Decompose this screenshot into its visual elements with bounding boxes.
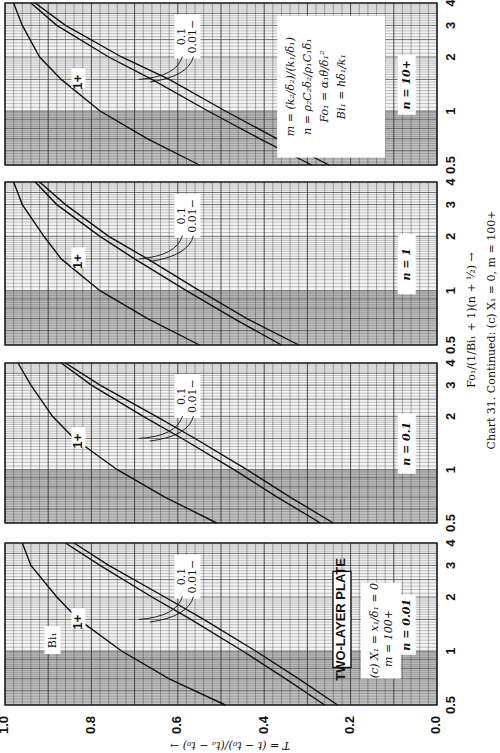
x-tick: 0.5	[443, 156, 458, 174]
y-tick: 0.6	[169, 716, 184, 734]
svg-text:Bi₁ = hδ₁/k₁: Bi₁ = hδ₁/k₁	[335, 54, 348, 120]
svg-text:0.01−: 0.01−	[186, 199, 199, 233]
panel-n-0-1: 1+0.10.01−n = 0.1	[5, 363, 437, 523]
chart-panels: 1+0.10.01−n = 0.011+0.10.01−n = 0.11+0.1…	[5, 3, 437, 705]
x-tick: 4	[443, 539, 458, 547]
y-tick: 0.4	[256, 715, 271, 734]
x-tick: 1	[443, 647, 458, 654]
y-tick: 1.0	[0, 716, 11, 734]
svg-text:m = 100+: m = 100+	[382, 610, 395, 667]
label-1plus: 1+	[70, 74, 85, 89]
y-tick: 0.0	[428, 716, 443, 734]
title-box: TWO-LAYER PLATE	[333, 558, 348, 681]
rotated-chart: 1+0.10.01−n = 0.011+0.10.01−n = 0.11+0.1…	[0, 0, 500, 753]
svg-text:m = (k₂/δ₂)/(k₁/δ₁): m = (k₂/δ₂)/(k₁/δ₁)	[284, 37, 297, 136]
svg-text:0.01−: 0.01−	[186, 560, 199, 594]
svg-text:0.01−: 0.01−	[186, 20, 199, 54]
x-tick: 4	[443, 359, 458, 367]
bi-label: Bi₁	[46, 632, 59, 648]
label-1plus: 1+	[70, 614, 85, 629]
svg-text:(c) X₁ = x₁/δ₁ = 0: (c) X₁ = x₁/δ₁ = 0	[368, 583, 381, 678]
y-tick: 0.8	[83, 716, 98, 734]
x-tick: 3	[443, 562, 458, 569]
x-tick: 4	[443, 0, 458, 7]
y-axis-label: T = (t − t₀)/(tₐ − t₀) →	[170, 739, 290, 752]
x-tick: 2	[443, 233, 458, 240]
n-label: n = 10+	[400, 60, 413, 109]
definitions-box: m = (k₂/δ₂)/(k₁/δ₁)n = ρ₂C₂δ₂/ρ₁C₁δ₁Fo₁ …	[277, 16, 385, 158]
x-tick: 0.5	[443, 514, 458, 532]
x-tick: 3	[443, 382, 458, 389]
x-tick: 0.5	[443, 336, 458, 354]
n-label: n = 0.01	[400, 599, 413, 651]
label-1plus: 1+	[70, 433, 85, 448]
x-tick: 1	[443, 107, 458, 114]
x-axis-label: Fo₁/(1/Bi₁ + 1)(n + ½) →	[465, 252, 478, 388]
n-label: n = 0.1	[400, 422, 413, 466]
x-axis-ticks: 0.512340.512340.512340.51234	[443, 0, 458, 714]
y-tick: 0.2	[342, 716, 357, 734]
label-1plus: 1+	[70, 254, 85, 269]
chart-caption: Chart 31. Continued: (c) X₁ = 0, m = 100…	[485, 211, 498, 450]
svg-text:0.01−: 0.01−	[186, 379, 199, 413]
x-tick: 3	[443, 201, 458, 208]
panel-n-1: 1+0.10.01−n = 1	[5, 182, 437, 345]
svg-text:n = ρ₂C₂δ₂/ρ₁C₁δ₁: n = ρ₂C₂δ₂/ρ₁C₁δ₁	[301, 38, 314, 134]
x-tick: 1	[443, 287, 458, 294]
n-label: n = 1	[400, 248, 413, 281]
x-tick: 1	[443, 466, 458, 473]
x-tick: 2	[443, 413, 458, 420]
x-tick: 2	[443, 593, 458, 600]
svg-text:Fo₁ = α₁θ/δ₁²: Fo₁ = α₁θ/δ₁²	[318, 51, 331, 124]
x-tick: 2	[443, 53, 458, 60]
x-tick: 4	[443, 178, 458, 186]
x-tick: 3	[443, 22, 458, 29]
x-tick: 0.5	[443, 696, 458, 714]
y-axis-ticks: 1.00.80.60.40.20.0	[0, 715, 443, 734]
